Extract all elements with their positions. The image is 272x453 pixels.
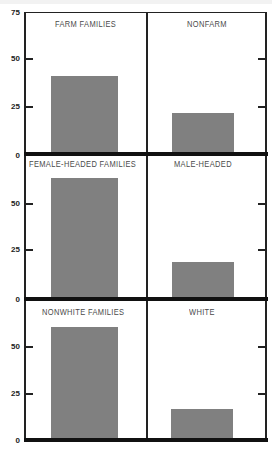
y-tick-label: 25 xyxy=(0,102,20,111)
cropped-title-remnant xyxy=(0,0,272,4)
bar-white xyxy=(171,409,233,440)
y-tick-label: 50 xyxy=(0,342,20,351)
y-tick-label: 0 xyxy=(0,295,20,304)
y-tick-label: 50 xyxy=(0,199,20,208)
y-tick-label: 25 xyxy=(0,245,20,254)
bar-nonfarm xyxy=(172,113,234,154)
y-tick xyxy=(25,203,33,205)
bar-male-headed xyxy=(172,262,234,299)
y-tick xyxy=(25,58,33,60)
bar-nonwhite-families xyxy=(51,327,118,440)
y-tick-label: 0 xyxy=(0,436,20,445)
y-tick-label: 0 xyxy=(0,151,20,160)
category-label: NONWHITE FAMILIES xyxy=(42,307,124,317)
bar-female-headed xyxy=(51,178,118,299)
category-label: FARM FAMILIES xyxy=(55,19,116,29)
category-label: FEMALE-HEADED FAMILIES xyxy=(29,159,136,169)
y-tick-label: 25 xyxy=(0,389,20,398)
column-divider xyxy=(146,12,148,442)
y-tick xyxy=(25,393,33,395)
y-tick-label: 50 xyxy=(0,54,20,63)
y-tick xyxy=(258,203,266,205)
y-tick xyxy=(25,106,33,108)
x-axis-baseline xyxy=(24,152,268,156)
y-tick xyxy=(258,58,266,60)
x-axis-baseline xyxy=(24,438,268,442)
y-tick xyxy=(258,346,266,348)
bar-farm-families xyxy=(51,76,118,154)
y-tick xyxy=(258,106,266,108)
y-tick xyxy=(258,249,266,251)
category-label: NONFARM xyxy=(187,19,227,29)
y-tick xyxy=(25,346,33,348)
y-tick xyxy=(258,393,266,395)
category-label: WHITE xyxy=(189,307,215,317)
category-label: MALE-HEADED xyxy=(174,159,232,169)
y-tick xyxy=(25,249,33,251)
y-tick-label: 75 xyxy=(0,8,20,17)
x-axis-baseline xyxy=(24,297,268,301)
